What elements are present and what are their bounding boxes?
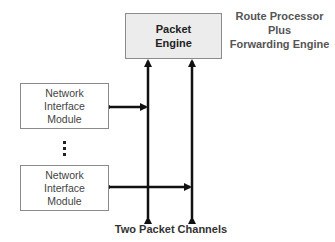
route-processor-label: Route Processor Plus Forwarding Engine <box>224 9 335 51</box>
packet-channels-label: Two Packet Channels <box>110 222 232 236</box>
packet-engine-line2: Engine <box>155 36 192 50</box>
ellipsis-dot <box>63 153 66 156</box>
network-interface-module-top: Network Interface Module <box>20 83 109 129</box>
ellipsis-dot <box>63 141 66 144</box>
ellipsis-dot <box>63 147 66 150</box>
network-interface-module-bottom: Network Interface Module <box>20 165 109 211</box>
packet-engine-box: Packet Engine <box>125 13 222 59</box>
packet-engine-line1: Packet <box>156 22 191 36</box>
